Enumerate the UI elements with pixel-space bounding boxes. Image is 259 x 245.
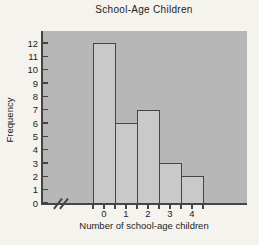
y-tick-mark bbox=[43, 136, 48, 138]
x-tick-label: 1 bbox=[115, 208, 137, 219]
y-tick-mark bbox=[43, 122, 48, 124]
y-tick-label: 9 bbox=[14, 78, 38, 89]
y-tick-label: 8 bbox=[14, 91, 38, 102]
y-tick-mark bbox=[43, 176, 48, 178]
y-tick-mark bbox=[43, 96, 48, 98]
y-tick-label: 3 bbox=[14, 158, 38, 169]
y-tick-mark bbox=[43, 69, 48, 71]
x-tick-label: 4 bbox=[181, 208, 203, 219]
y-tick-label: 10 bbox=[14, 64, 38, 75]
y-tick-label: 5 bbox=[14, 131, 38, 142]
y-tick-mark bbox=[43, 56, 48, 58]
y-tick-mark bbox=[43, 162, 48, 164]
y-tick-mark bbox=[43, 82, 48, 84]
y-tick-mark bbox=[43, 109, 48, 111]
x-axis-label: Number of school-age children bbox=[41, 220, 247, 231]
y-tick-label: 11 bbox=[14, 51, 38, 62]
bar bbox=[159, 163, 182, 203]
y-tick-mark bbox=[43, 202, 48, 204]
y-tick-mark bbox=[43, 42, 48, 44]
chart-title: School-Age Children bbox=[41, 4, 247, 15]
bar bbox=[137, 110, 160, 203]
x-tick-label: 3 bbox=[159, 208, 181, 219]
y-tick-label: 6 bbox=[14, 118, 38, 129]
histogram-figure: School-Age Children Frequency 0123456789… bbox=[0, 0, 259, 245]
x-tick-label: 2 bbox=[137, 208, 159, 219]
y-tick-label: 1 bbox=[14, 184, 38, 195]
bar bbox=[93, 43, 116, 203]
y-tick-mark bbox=[43, 189, 48, 191]
y-tick-mark bbox=[43, 149, 48, 151]
y-tick-label: 7 bbox=[14, 104, 38, 115]
y-tick-label: 4 bbox=[14, 144, 38, 155]
y-tick-label: 2 bbox=[14, 171, 38, 182]
y-tick-label: 0 bbox=[14, 198, 38, 209]
y-tick-label: 12 bbox=[14, 38, 38, 49]
plot-area bbox=[41, 31, 247, 205]
bar bbox=[181, 176, 204, 203]
bar bbox=[115, 123, 138, 203]
x-tick-label: 0 bbox=[93, 208, 115, 219]
